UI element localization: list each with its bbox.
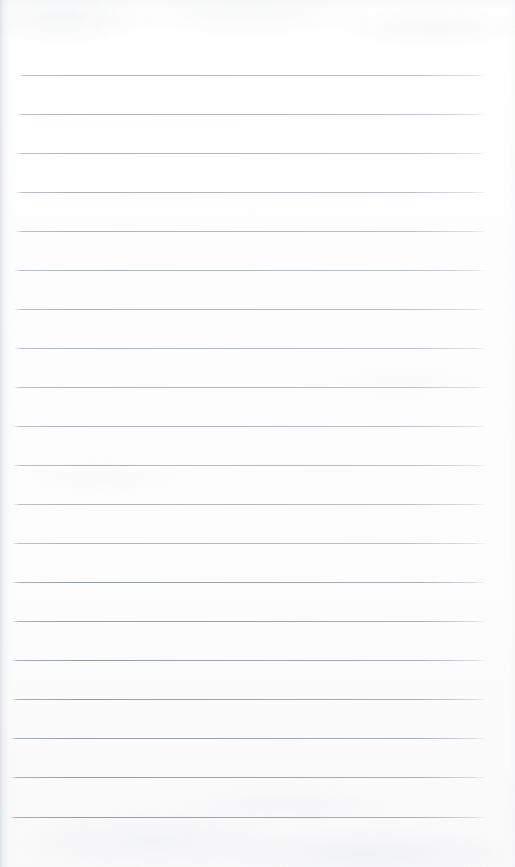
ruled-line — [18, 75, 487, 76]
ruled-line — [12, 582, 487, 583]
ruled-line — [13, 465, 487, 466]
ruled-line — [10, 738, 487, 739]
ruled-line — [15, 153, 487, 154]
ruled-line — [13, 426, 487, 427]
ruled-line — [16, 114, 487, 115]
ruled-line — [11, 699, 487, 700]
ruled-line — [13, 504, 487, 505]
ruled-lines-layer — [0, 0, 515, 867]
ruled-line — [14, 270, 487, 271]
scanned-page — [0, 0, 515, 867]
ruled-line — [9, 817, 487, 818]
ruled-line — [15, 231, 487, 232]
ruled-line — [10, 777, 487, 778]
ruled-line — [12, 543, 487, 544]
ruled-line — [15, 192, 487, 193]
ruled-line — [14, 348, 487, 349]
ruled-line — [12, 621, 487, 622]
ruled-line — [13, 387, 487, 388]
ruled-line — [14, 309, 487, 310]
ruled-line — [11, 660, 487, 661]
